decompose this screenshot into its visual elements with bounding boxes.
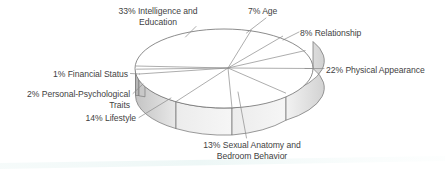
pie-top-face (135, 29, 313, 108)
leader-financial (131, 74, 140, 75)
leader-age (247, 18, 267, 33)
slice-label-sexual-anatomy-and-bedroom-behavior: 13% Sexual Anatomy and Bedroom Behavior (190, 140, 314, 161)
slice-label-financial-status: 1% Financial Status (14, 69, 128, 80)
slice-label-physical-appearance: 22% Physical Appearance (326, 65, 444, 76)
slice-label-intelligence-and-education: 33% Intelligence and Education (96, 6, 220, 27)
slice-label-age: 7% Age (248, 6, 308, 17)
slice-label-relationship: 8% Relationship (300, 28, 390, 39)
leader-relationship (283, 32, 299, 40)
pie-chart-figure: 33% Intelligence and Education 7% Age 8%… (0, 0, 445, 178)
slice-label-personal-psychological-traits: 2% Personal-Psychological Traits (2, 89, 130, 110)
slice-label-lifestyle: 14% Lifestyle (56, 113, 136, 124)
